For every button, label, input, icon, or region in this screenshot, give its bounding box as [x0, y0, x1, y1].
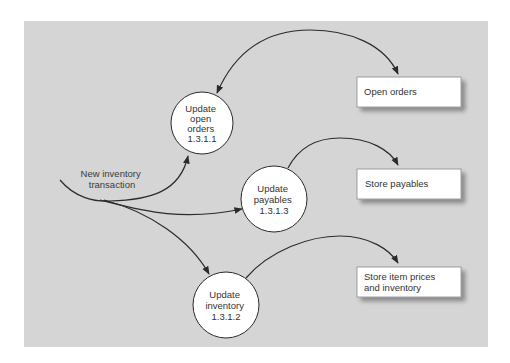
process-label-line: inventory: [205, 300, 244, 311]
process-label-line: Update: [209, 289, 240, 300]
process-number: 1.3.1.3: [259, 205, 288, 216]
input-flow-label: New inventory transaction: [81, 168, 144, 190]
store-label: Store payables: [365, 178, 429, 189]
process-update-open-orders: Update open orders 1.3.1.1: [171, 92, 233, 154]
store-label-line: Store item prices: [364, 271, 436, 282]
store-open-orders: Open orders: [357, 77, 461, 107]
process-label: Update payables 1.3.1.3: [254, 183, 295, 216]
store-item-prices-and-inventory: Store item prices and inventory: [357, 267, 461, 297]
process-label-line: Update: [257, 183, 288, 194]
process-update-payables: Update payables 1.3.1.3: [241, 166, 307, 232]
process-label-line: payables: [254, 194, 292, 205]
input-flow-label-line: New inventory: [81, 168, 141, 179]
input-flow-label-line: transaction: [89, 179, 135, 190]
process-label: Update inventory 1.3.1.2: [205, 289, 246, 322]
process-number: 1.3.1.1: [187, 133, 216, 144]
store-payables: Store payables: [357, 169, 461, 199]
process-number: 1.3.1.2: [211, 311, 240, 322]
store-label-line: and inventory: [364, 282, 421, 293]
process-update-inventory: Update inventory 1.3.1.2: [193, 272, 259, 338]
store-label: Open orders: [364, 86, 417, 97]
process-label: Update open orders 1.3.1.1: [185, 103, 218, 144]
data-flow-diagram: New inventory transaction Update open or…: [0, 0, 510, 363]
